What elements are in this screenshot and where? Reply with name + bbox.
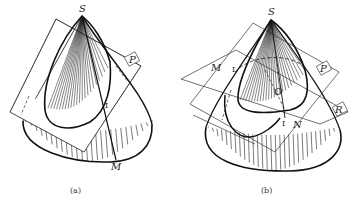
cone-hatch-line: [121, 128, 123, 149]
cone-hatch-line: [275, 135, 276, 170]
cone-hatch-line: [253, 134, 254, 165]
cone-hatch-line: [311, 132, 312, 153]
cone-hatch-line: [266, 135, 267, 170]
caption-a: (a): [70, 186, 81, 195]
label-plane-p-a: P: [128, 54, 136, 65]
cone-hatch-line: [293, 134, 294, 165]
label-point-one-top-b: I: [232, 65, 235, 74]
label-apex-a: S: [79, 3, 86, 14]
cone-hatch-line: [280, 135, 281, 170]
cone-hatch-line: [307, 133, 308, 157]
section-ray: [251, 20, 271, 101]
cone-b-base-ellipse: [205, 127, 341, 171]
cone-hatch-line: [101, 131, 103, 160]
diagram-canvas: S P I M (a) S P R M I O I N: [0, 0, 359, 199]
cone-hatch-line: [217, 129, 218, 137]
cone-hatch-line: [141, 123, 143, 130]
cone-hatch-line: [146, 122, 148, 126]
panel-b: S P R M I O I N (b): [181, 6, 348, 195]
cone-hatch-line: [262, 135, 263, 169]
label-plane-p-b: P: [319, 63, 327, 74]
cone-hatch-line: [239, 133, 240, 157]
cone-hatch-line: [248, 134, 249, 163]
cone-hatch-line: [298, 134, 299, 163]
cone-hatch-line: [302, 133, 303, 160]
cone-hatch-line: [136, 125, 138, 136]
cone-hatch-line: [106, 130, 108, 157]
label-point-one-a: I: [105, 101, 108, 110]
section-b-circle-front: [225, 95, 280, 137]
cone-hatch-line: [226, 130, 227, 145]
cone-hatch-line: [221, 130, 222, 141]
cone-hatch-line: [334, 128, 335, 132]
label-point-m-a: M: [110, 161, 122, 172]
cone-hatch-line: [257, 134, 258, 167]
section-ray: [249, 20, 271, 101]
cone-hatch-line: [329, 129, 330, 137]
panel-a: S P I M (a): [10, 3, 153, 195]
label-point-n-b: N: [292, 119, 303, 130]
cone-hatch-line: [316, 131, 317, 149]
label-center-o-b: O: [274, 86, 282, 97]
caption-b: (b): [261, 186, 272, 195]
cone-hatch-line: [230, 131, 231, 149]
cone-hatch-line: [271, 135, 272, 170]
label-plane-r-b: R: [334, 104, 343, 115]
cone-hatch-line: [325, 130, 326, 141]
cone-b-hatching: [208, 127, 339, 170]
cone-hatch-line: [96, 131, 98, 160]
label-point-m-b: M: [210, 62, 222, 73]
label-point-one-bottom-b: I: [282, 119, 285, 128]
section-ray: [260, 20, 271, 101]
cone-hatch-line: [212, 128, 213, 132]
plane-r-b-edge-lower: [193, 115, 255, 144]
cone-hatch-line: [131, 126, 133, 140]
cone-hatch-line: [116, 129, 118, 152]
label-apex-b: S: [268, 6, 275, 17]
cone-hatch-line: [289, 134, 290, 167]
cone-hatch-line: [320, 130, 321, 145]
cone-hatch-line: [126, 127, 128, 145]
